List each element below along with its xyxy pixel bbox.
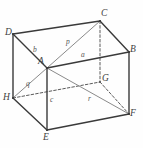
vertex-label-C: C xyxy=(101,9,107,19)
geometry-figure: DCBAGHEF bacpqr xyxy=(0,0,143,148)
diagonal-label-p: p xyxy=(66,38,70,46)
vertex-dot-G xyxy=(99,81,101,83)
edge-H-E xyxy=(13,98,47,130)
diagonal-label-r: r xyxy=(88,95,91,103)
edge-label-c: c xyxy=(50,96,53,104)
vertex-label-D: D xyxy=(5,28,12,38)
vertex-label-H: H xyxy=(3,93,10,103)
diagonals-group xyxy=(13,21,129,114)
hidden-edges-group xyxy=(13,21,129,114)
diagonal-label-q: q xyxy=(26,80,30,88)
edge-label-a: a xyxy=(81,51,85,59)
edge-E-F xyxy=(47,114,129,130)
vertex-dot-D xyxy=(12,33,14,35)
vertex-dot-H xyxy=(12,97,14,99)
edge-A-B xyxy=(47,52,129,68)
vertex-label-B: B xyxy=(130,45,136,55)
solid-edges-group xyxy=(12,20,130,131)
hidden-edge-G-F xyxy=(100,82,129,114)
vertex-label-F: F xyxy=(130,109,136,119)
vertex-dot-E xyxy=(46,129,48,131)
vertex-label-E: E xyxy=(43,133,49,143)
vertex-label-A: A xyxy=(38,57,44,67)
edge-C-B xyxy=(100,21,129,52)
vertex-dot-A xyxy=(46,67,48,69)
diagonal-A-H xyxy=(13,68,47,98)
cube-diagram-svg xyxy=(0,0,143,148)
vertex-label-G: G xyxy=(102,74,109,84)
diagonal-A-F xyxy=(47,68,129,114)
edge-label-b: b xyxy=(33,46,37,54)
vertex-dot-C xyxy=(99,20,101,22)
